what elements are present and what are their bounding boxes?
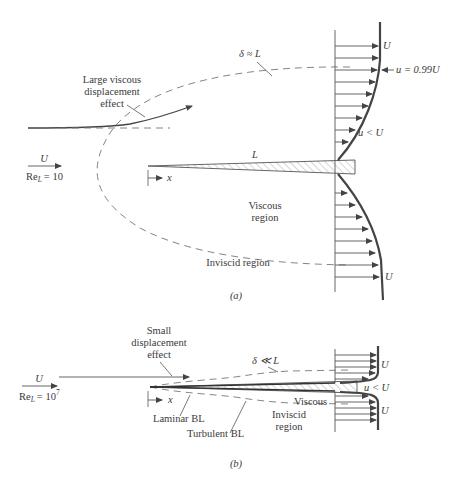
caption-a: (a) <box>230 290 243 302</box>
boundary-layer-figure: Large viscous displacement effect δ ≈ L … <box>0 0 466 487</box>
velocity-arrows-bottom-b <box>335 396 376 420</box>
viscous-label-2-a: region <box>252 212 280 223</box>
displacement-label-1: Large viscous <box>83 74 141 85</box>
edge-velocity-label: u = 0.99U <box>396 64 441 75</box>
inner-velocity-label-b: u < U <box>364 382 391 393</box>
bottom-U-label-a: U <box>385 271 394 282</box>
viscous-label-b: Viscous <box>294 396 327 407</box>
delta-label-b: δ ≪ L <box>252 355 279 366</box>
caption-b: (b) <box>230 458 243 470</box>
displaced-streamline <box>28 106 192 128</box>
freestream-U-a: U <box>40 153 49 164</box>
top-U-label-b: U <box>381 359 390 370</box>
panel-b: Small displacement effect U ReL= 107 δ ≪… <box>19 325 391 470</box>
velocity-profile-curve-top-b <box>340 346 378 383</box>
inviscid-label-a: Inviscid region <box>206 257 270 268</box>
small-displacement-2: displacement <box>131 337 186 348</box>
panel-a: Large viscous displacement effect δ ≈ L … <box>26 22 441 302</box>
velocity-arrows-top-b <box>335 355 376 379</box>
small-displacement-3: effect <box>147 349 171 360</box>
displacement-label-2: displacement <box>84 86 139 97</box>
bottom-U-label-b: U <box>381 405 390 416</box>
laminar-label: Laminar BL <box>153 413 205 424</box>
x-axis-marker-b: x <box>148 391 173 407</box>
freestream-U-b: U <box>35 373 44 384</box>
svg-text:x: x <box>167 394 173 405</box>
reynolds-a: ReL= 10 <box>26 171 63 184</box>
svg-text:x: x <box>166 172 172 183</box>
velocity-arrows-bottom-a <box>335 193 379 277</box>
velocity-profile-curve-bottom-b <box>340 392 378 430</box>
delta-leader-b <box>268 367 278 372</box>
inviscid-label-2-b: region <box>276 421 304 432</box>
inviscid-label-1-b: Inviscid <box>272 409 307 420</box>
top-U-label-a: U <box>383 40 392 51</box>
turbulent-label: Turbulent BL <box>187 428 244 439</box>
delta-label-a: δ ≈ L <box>239 48 261 59</box>
reynolds-b: ReL= 107 <box>19 388 60 404</box>
small-displacement-1: Small <box>147 325 172 336</box>
inner-velocity-label-a: u < U <box>358 127 385 138</box>
displacement-leader <box>127 105 145 117</box>
x-axis-marker-a: x <box>148 170 172 186</box>
viscous-label-1-a: Viscous <box>248 200 281 211</box>
flat-plate-a <box>148 160 355 174</box>
displacement-label-3: effect <box>100 98 124 109</box>
delta-leader-a <box>257 62 272 76</box>
small-displacement-leader <box>160 362 172 376</box>
plate-length-label: L <box>251 149 258 160</box>
